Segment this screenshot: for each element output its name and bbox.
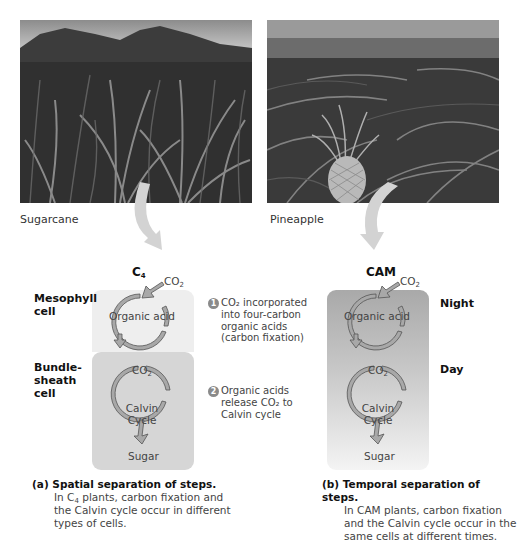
night-label: Night: [440, 297, 474, 310]
caption-a-heading: (a) Spatial separation of steps.: [32, 478, 231, 491]
caption-a: (a) Spatial separation of steps. In C4 p…: [32, 478, 231, 530]
cam-organic-acid: Organic acid: [332, 310, 422, 322]
step-1: 1CO₂ incorporated into four-carbon organ…: [208, 297, 307, 344]
bundle-sheath-cell-label: Bundle- sheath cell: [34, 361, 82, 400]
sugarcane-label: Sugarcane: [20, 213, 79, 226]
c4-co2-in: CO2: [164, 275, 184, 287]
cam-calvin-cycle: Calvin Cycle: [348, 402, 408, 426]
c4-organic-acid: Organic acid: [97, 310, 187, 322]
pineapple-to-cam-arrow: [350, 180, 410, 255]
step-1-badge: 1: [208, 298, 219, 309]
pineapple-photo: [267, 20, 499, 203]
c4-co2-mid: CO2: [132, 364, 152, 376]
day-label: Day: [440, 363, 463, 376]
step-2: 2Organic acids release CO₂ to Calvin cyc…: [208, 385, 293, 420]
caption-b-heading: (b) Temporal separation of steps.: [322, 478, 517, 504]
step-2-badge: 2: [208, 386, 219, 397]
cam-sugar: Sugar: [364, 450, 395, 462]
mesophyll-cell-label: Mesophyll cell: [34, 292, 97, 318]
pineapple-label: Pineapple: [270, 213, 324, 226]
sugarcane-photo: [20, 20, 252, 203]
caption-b: (b) Temporal separation of steps. In CAM…: [322, 478, 517, 543]
cam-co2-in: CO2: [400, 275, 420, 287]
c4-sugar: Sugar: [128, 450, 159, 462]
sugarcane-to-c4-arrow: [118, 180, 178, 255]
c4-calvin-cycle: Calvin Cycle: [112, 402, 172, 426]
cam-co2-mid: CO2: [368, 364, 388, 376]
